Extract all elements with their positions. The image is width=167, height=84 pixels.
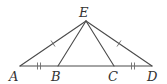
tick-mark-AE xyxy=(51,41,55,47)
tick-mark-DE xyxy=(117,41,121,47)
segment-CE xyxy=(86,21,114,66)
label-point-E: E xyxy=(78,5,89,20)
label-point-A: A xyxy=(8,69,18,84)
geometry-diagram: E A B C D xyxy=(0,0,167,84)
label-point-D: D xyxy=(146,69,158,84)
label-point-B: B xyxy=(50,69,61,84)
segment-BE xyxy=(58,21,86,66)
label-point-C: C xyxy=(108,69,118,84)
